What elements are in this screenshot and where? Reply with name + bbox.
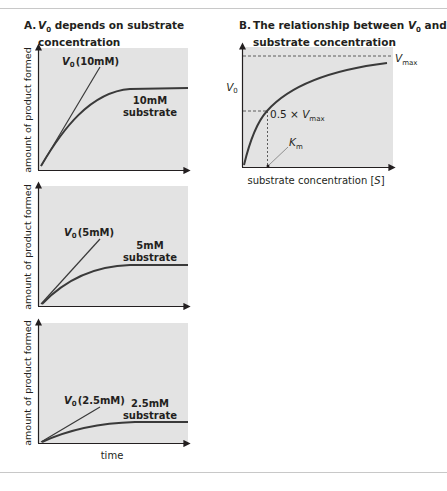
subplot-2-5mm: V0(2.5mM) 2.5mM substrate amount of prod…: [22, 320, 188, 461]
y-axis-label: amount of product formed: [22, 184, 33, 309]
curve-label: 5mM: [136, 240, 163, 251]
curve-label: 2.5mM: [131, 398, 169, 409]
michaelis-menten-plot: V0 Vmax 0.5 × Vmax Km substrate concentr…: [226, 46, 417, 186]
figure-canvas: V0(10mM) 10mM substrate amount of produc…: [0, 0, 447, 491]
curve-label: 10mM: [133, 95, 167, 106]
y-axis-label: amount of product formed: [22, 320, 33, 445]
x-axis-label-time: time: [101, 450, 124, 461]
subplot-10mm: V0(10mM) 10mM substrate amount of produc…: [22, 47, 188, 173]
subplot-5mm: V0(5mM) 5mM substrate amount of product …: [22, 184, 188, 309]
y-axis-label: amount of product formed: [22, 47, 33, 172]
curve-label-line2: substrate: [123, 252, 177, 263]
x-axis-label-substrate: substrate concentration [S]: [247, 175, 384, 186]
y-axis-label-v0: V0: [226, 81, 238, 95]
plot-background: [39, 323, 188, 443]
vmax-label: Vmax: [395, 52, 417, 67]
curve-label-line2: substrate: [123, 410, 177, 421]
curve-label-line2: substrate: [123, 107, 177, 118]
